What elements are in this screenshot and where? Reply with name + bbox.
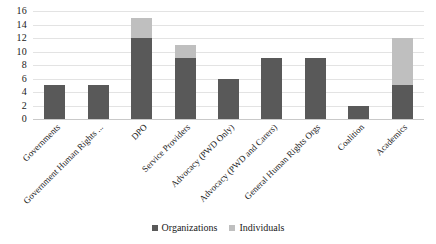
bar-segment-organizations: [44, 85, 65, 119]
x-axis-labels: GovernmentsGovernment Human Rights ...DP…: [33, 122, 424, 212]
bar-group: [392, 38, 413, 119]
plot-area: [33, 11, 424, 119]
y-axis-tick-label: 2: [22, 101, 27, 111]
y-axis-tick-label: 8: [22, 60, 27, 70]
chart-legend: OrganizationsIndividuals: [0, 222, 436, 233]
legend-item: Organizations: [152, 222, 218, 233]
y-axis-tick-label: 0: [22, 114, 27, 124]
y-axis-tick-label: 14: [17, 20, 27, 30]
bar-group: [44, 85, 65, 119]
bar-segment-organizations: [348, 106, 369, 120]
y-axis-tick-label: 6: [22, 74, 27, 84]
bar-group: [131, 18, 152, 119]
legend-swatch-icon: [152, 225, 158, 231]
bar-segment-individuals: [131, 18, 152, 38]
y-axis-tick-label: 12: [17, 33, 27, 43]
bar-group: [88, 85, 109, 119]
y-axis: 1614121086420: [0, 0, 33, 130]
bar-segment-individuals: [392, 38, 413, 85]
axis-baseline: [33, 119, 424, 120]
legend-item: Individuals: [229, 222, 284, 233]
bar-series-container: [33, 11, 424, 119]
bar-segment-organizations: [261, 58, 282, 119]
bar-group: [175, 45, 196, 119]
y-axis-tick-label: 10: [17, 47, 27, 57]
stacked-bar-chart: 1614121086420 GovernmentsGovernment Huma…: [0, 0, 436, 244]
bar-group: [348, 106, 369, 120]
bar-group: [218, 79, 239, 120]
y-axis-tick-label: 4: [22, 87, 27, 97]
bar-segment-organizations: [218, 79, 239, 120]
legend-label: Organizations: [162, 222, 218, 233]
bar-segment-organizations: [88, 85, 109, 119]
bar-group: [305, 58, 326, 119]
bar-segment-organizations: [392, 85, 413, 119]
bar-segment-organizations: [131, 38, 152, 119]
bar-segment-individuals: [175, 45, 196, 59]
legend-label: Individuals: [239, 222, 284, 233]
bar-group: [261, 58, 282, 119]
y-axis-tick-label: 16: [17, 6, 27, 16]
bar-segment-organizations: [305, 58, 326, 119]
legend-swatch-icon: [229, 225, 235, 231]
bar-segment-organizations: [175, 58, 196, 119]
